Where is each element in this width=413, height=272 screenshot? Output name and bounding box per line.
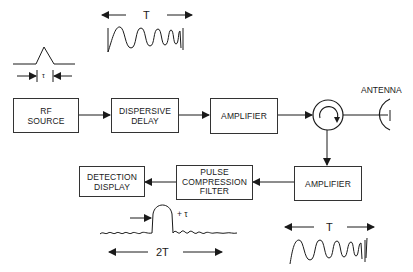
- detection-display-block: DETECTION DISPLAY: [79, 166, 145, 197]
- diagram-canvas: [0, 0, 413, 272]
- amplifier-rx-block: AMPLIFIER: [294, 166, 362, 201]
- chirp-rx-width-label: T: [326, 221, 333, 233]
- dispersive-delay-block: DISPERSIVE DELAY: [111, 98, 179, 133]
- pulse-compression-filter-block: PULSE COMPRESSION FILTER: [176, 165, 253, 200]
- dispersive-delay-label-line1: DISPERSIVE: [119, 106, 171, 116]
- amplifier-rx-label: AMPLIFIER: [305, 179, 351, 189]
- antenna-label: ANTENNA: [361, 85, 402, 95]
- rf-source-label-line2: SOURCE: [28, 116, 65, 126]
- chirp-tx-width-label: T: [143, 9, 150, 21]
- dispersive-delay-label-line2: DELAY: [131, 116, 159, 126]
- pcf-label-line3: FILTER: [200, 187, 229, 197]
- amplifier-tx-label: AMPLIFIER: [221, 111, 267, 121]
- detection-display-label-line1: DETECTION: [87, 172, 137, 182]
- circulator-icon: [313, 100, 343, 130]
- short-pulse-width-label: τ: [42, 71, 45, 81]
- rf-source-block: RF SOURCE: [13, 98, 79, 133]
- amplifier-tx-block: AMPLIFIER: [210, 98, 278, 134]
- compressed-pulse-width-label: + τ: [177, 209, 188, 219]
- compressed-pulse-waveform: [100, 205, 237, 252]
- rf-source-label-line1: RF: [40, 106, 52, 116]
- detection-display-label-line2: DISPLAY: [94, 182, 130, 192]
- compressed-pulse-span-label: 2T: [156, 246, 169, 258]
